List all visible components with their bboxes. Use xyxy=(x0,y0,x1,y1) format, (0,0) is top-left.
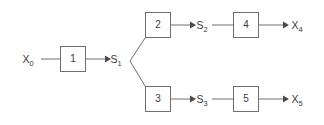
line-s1-to-block3 xyxy=(130,61,145,86)
signal-s3-subscript: 3 xyxy=(203,99,207,108)
block-diagram-canvas: 1 2 3 4 5 X0 S1 xyxy=(0,0,324,125)
svg-text:X0: X0 xyxy=(22,53,33,68)
signal-s1: S1 xyxy=(110,53,121,68)
signal-s2-subscript: 2 xyxy=(203,25,207,34)
signal-x0-base: X xyxy=(22,53,29,65)
block-1[interactable]: 1 xyxy=(61,47,86,72)
signal-x0-subscript: 0 xyxy=(29,59,33,68)
block-3-label: 3 xyxy=(155,93,161,104)
block-4-label: 4 xyxy=(243,19,249,30)
signal-s2-base: S xyxy=(196,19,203,31)
block-2-label: 2 xyxy=(155,19,161,30)
block-4[interactable]: 4 xyxy=(234,13,259,38)
svg-text:S1: S1 xyxy=(110,53,121,68)
signal-x4-base: X xyxy=(291,19,298,31)
flow-diagram-svg: 1 2 3 4 5 X0 S1 xyxy=(0,0,324,125)
block-5[interactable]: 5 xyxy=(234,87,259,112)
line-s1-to-block2 xyxy=(130,38,145,61)
signal-x4: X4 xyxy=(291,19,302,34)
block-2[interactable]: 2 xyxy=(146,13,171,38)
arrowhead-icon-to-x4 xyxy=(283,22,289,29)
signal-s3: S3 xyxy=(196,93,207,108)
signal-s3-base: S xyxy=(196,93,203,105)
signal-x4-subscript: 4 xyxy=(298,25,302,34)
signal-x0: X0 xyxy=(22,53,33,68)
svg-text:S3: S3 xyxy=(196,93,207,108)
block-3[interactable]: 3 xyxy=(146,87,171,112)
signal-s2: S2 xyxy=(196,19,207,34)
arrow-heads xyxy=(105,22,289,103)
arrowhead-icon-to-s2 xyxy=(190,22,196,29)
signal-s1-base: S xyxy=(110,53,117,65)
svg-text:X5: X5 xyxy=(291,93,302,108)
signal-x5-subscript: 5 xyxy=(298,99,302,108)
block-1-label: 1 xyxy=(70,53,76,64)
block-5-label: 5 xyxy=(243,93,249,104)
svg-text:S2: S2 xyxy=(196,19,207,34)
signal-x5: X5 xyxy=(291,93,302,108)
arrowhead-icon-to-x5 xyxy=(283,96,289,103)
signal-x5-base: X xyxy=(291,93,298,105)
svg-text:X4: X4 xyxy=(291,19,302,34)
arrowhead-icon-to-s3 xyxy=(190,96,196,103)
signal-s1-subscript: 1 xyxy=(117,59,121,68)
